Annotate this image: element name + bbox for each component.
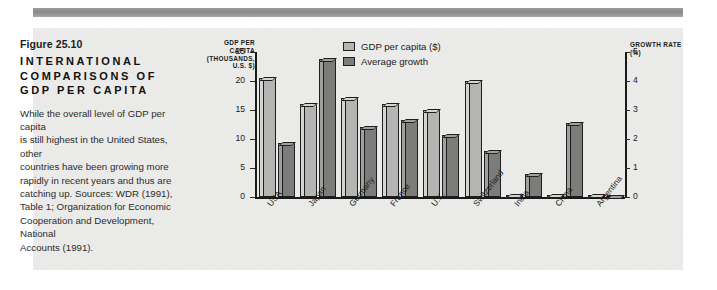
bar-front-face xyxy=(446,135,459,197)
x-axis-label-india: India xyxy=(512,188,531,208)
y2-tick-0 xyxy=(625,197,630,198)
y2-tick-label-3: 3 xyxy=(633,105,649,114)
bar-front-face xyxy=(386,104,399,197)
figure-title-line-2: COMPARISONS OF xyxy=(20,69,192,84)
legend-swatch-growth-icon xyxy=(343,57,355,66)
figure-body-line-4: rapidly in recent years and thus are xyxy=(20,174,192,187)
bar-gdp-switzerland xyxy=(465,81,478,197)
figure-body-line-3: countries have been growing more xyxy=(20,160,192,173)
legend-item-gdp: GDP per capita ($) xyxy=(343,40,441,53)
figure-caption: Figure 25.10 INTERNATIONAL COMPARISONS O… xyxy=(20,38,192,254)
figure-body-line-7: Cooperation and Development, National xyxy=(20,214,192,241)
y-tick-label-15: 15 xyxy=(229,105,245,114)
y2-tick-3 xyxy=(625,110,630,111)
y-tick-25 xyxy=(250,52,255,53)
y-tick-label-0: 0 xyxy=(229,192,245,201)
y-tick-label-5: 5 xyxy=(229,163,245,172)
y-tick-0 xyxy=(250,197,255,198)
figure-body-line-8: Accounts (1991). xyxy=(20,241,192,254)
bar-front-face xyxy=(469,81,482,197)
figure-title-line-3: GDP PER CAPITA xyxy=(20,83,192,98)
bar-front-face xyxy=(263,78,276,197)
figure-number: Figure 25.10 xyxy=(20,38,192,50)
figure-body-text: While the overall level of GDP per capit… xyxy=(20,107,192,254)
y-tick-label-20: 20 xyxy=(229,76,245,85)
y-axis-line xyxy=(255,52,257,197)
y-axis-title: GDP PER CAPITA (THOUSANDS, U.S. $) xyxy=(197,39,255,70)
figure-title-line-1: INTERNATIONAL xyxy=(20,54,192,69)
bar-front-face xyxy=(323,59,336,197)
y2-tick-4 xyxy=(625,81,630,82)
y2-tick-5 xyxy=(625,52,630,53)
legend-label-gdp: GDP per capita ($) xyxy=(361,41,441,52)
figure-body-line-1: While the overall level of GDP per capit… xyxy=(20,107,192,134)
y-tick-10 xyxy=(250,139,255,140)
y2-tick-label-2: 2 xyxy=(633,134,649,143)
y-tick-20 xyxy=(250,81,255,82)
figure-page: Figure 25.10 INTERNATIONAL COMPARISONS O… xyxy=(0,0,717,290)
y2-tick-label-0: 0 xyxy=(633,192,649,201)
figure-body-line-2: is still highest in the United States, o… xyxy=(20,133,192,160)
chart-plot-area: GDP PER CAPITA (THOUSANDS, U.S. $) GROWT… xyxy=(205,32,675,232)
y-tick-5 xyxy=(250,168,255,169)
x-axis-label-argentina: Argentina xyxy=(594,174,624,208)
y2-tick-2 xyxy=(625,139,630,140)
figure-body-line-6: Table 1; Organization for Economic xyxy=(20,200,192,213)
bar-front-face xyxy=(345,98,358,197)
legend-label-growth: Average growth xyxy=(361,56,428,67)
y2-axis-line xyxy=(625,52,627,197)
bar-growth-usa xyxy=(278,143,291,197)
bar-front-face xyxy=(304,104,317,197)
figure-body-line-5: catching up. Sources: WDR (1991), xyxy=(20,187,192,200)
chart-legend: GDP per capita ($) Average growth xyxy=(343,40,441,70)
bar-gdp-germany xyxy=(341,98,354,197)
top-divider-rule xyxy=(33,8,683,17)
figure-title: INTERNATIONAL COMPARISONS OF GDP PER CAP… xyxy=(20,54,192,98)
bar-front-face xyxy=(282,143,295,197)
y-tick-label-10: 10 xyxy=(229,134,245,143)
legend-swatch-gdp-icon xyxy=(343,42,355,51)
y2-tick-1 xyxy=(625,168,630,169)
bar-gdp-usa xyxy=(259,78,272,197)
y2-tick-label-5: 5 xyxy=(633,47,649,56)
bar-growth-uk xyxy=(442,135,455,197)
bar-growth-japan xyxy=(319,59,332,197)
y2-tick-label-4: 4 xyxy=(633,76,649,85)
y-tick-15 xyxy=(250,110,255,111)
y-tick-label-25: 25 xyxy=(229,47,245,56)
bar-gdp-france xyxy=(382,104,395,197)
bar-gdp-japan xyxy=(300,104,313,197)
bar-gdp-uk xyxy=(423,110,436,197)
bar-front-face xyxy=(570,123,583,197)
bar-front-face xyxy=(427,110,440,197)
legend-item-growth: Average growth xyxy=(343,55,441,68)
y2-tick-label-1: 1 xyxy=(633,163,649,172)
